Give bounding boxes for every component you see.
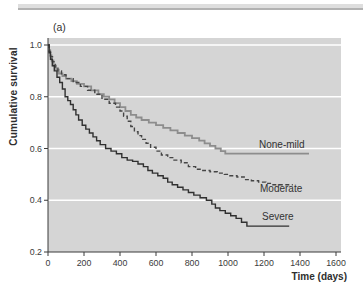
curve-none-mild	[48, 45, 309, 154]
x-tick-label: 1200	[247, 258, 281, 268]
x-tick-label: 1400	[283, 258, 317, 268]
x-axis-title: Time (days)	[292, 271, 347, 282]
x-tick-label: 400	[103, 258, 137, 268]
x-tick-label: 1600	[319, 258, 353, 268]
y-tick-label: 1.0	[16, 40, 42, 50]
curve-label-severe: Severe	[262, 211, 294, 222]
x-tick-label: 600	[139, 258, 173, 268]
figure-panel: (a) Cumulative survival 1.00.80.60.40.2 …	[0, 0, 363, 300]
survival-chart	[0, 0, 363, 300]
x-tick-label: 1000	[211, 258, 245, 268]
x-tick-label: 0	[31, 258, 65, 268]
curve-label-moderate: Moderate	[260, 183, 302, 194]
y-tick-label: 0.2	[16, 247, 42, 257]
x-tick-label: 800	[175, 258, 209, 268]
y-tick-label: 0.6	[16, 144, 42, 154]
curve-severe	[48, 45, 289, 226]
curve-label-none-mild: None-mild	[259, 139, 305, 150]
y-tick-label: 0.4	[16, 195, 42, 205]
curve-moderate	[48, 45, 293, 185]
y-tick-label: 0.8	[16, 92, 42, 102]
x-tick-label: 200	[67, 258, 101, 268]
